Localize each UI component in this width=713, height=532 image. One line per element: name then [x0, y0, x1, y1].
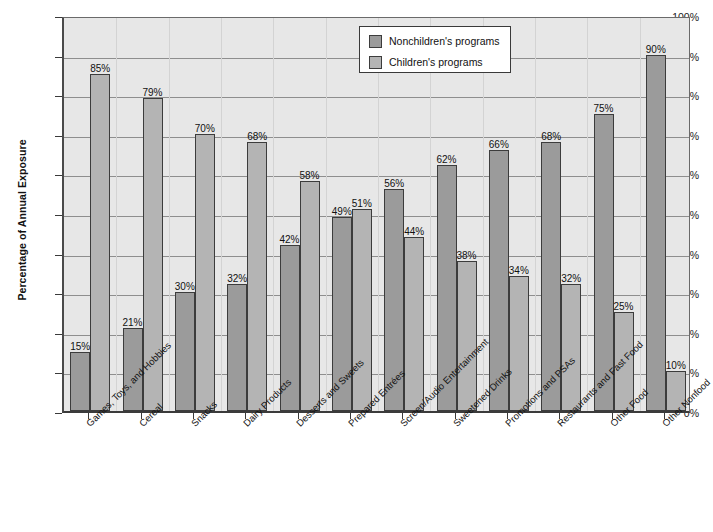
y-axis-tick-mark — [55, 294, 62, 295]
bar-value-label: 32% — [553, 273, 589, 285]
bar — [352, 209, 372, 411]
bar — [404, 237, 424, 411]
bar-value-label: 79% — [135, 87, 171, 99]
bar-value-label: 66% — [481, 139, 517, 151]
bar-value-label: 34% — [501, 265, 537, 277]
y-axis-tick-mark — [55, 255, 62, 256]
bar-value-label: 56% — [376, 178, 412, 190]
y-axis-tick-mark — [55, 334, 62, 335]
y-axis-tick-mark — [55, 136, 62, 137]
bar — [646, 55, 666, 411]
bar — [300, 181, 320, 411]
vertical-gridline — [587, 18, 588, 411]
bar-value-label: 85% — [82, 63, 118, 75]
legend-swatch-icon — [369, 35, 382, 48]
vertical-gridline — [378, 18, 379, 411]
legend-label: Children's programs — [389, 56, 483, 69]
bar — [175, 292, 195, 411]
y-axis-title: Percentage of Annual Exposure — [16, 130, 32, 310]
bar-value-label: 58% — [292, 170, 328, 182]
bar-value-label: 62% — [429, 154, 465, 166]
y-axis-tick-mark — [55, 57, 62, 58]
vertical-gridline — [535, 18, 536, 411]
bar-value-label: 38% — [449, 250, 485, 262]
bar-value-label: 75% — [586, 103, 622, 115]
y-axis-tick-mark — [55, 96, 62, 97]
bar-value-label: 90% — [638, 44, 674, 56]
top-edge-artifact — [8, 0, 198, 6]
bar — [247, 142, 267, 411]
vertical-gridline — [221, 18, 222, 411]
y-axis-tick-mark — [55, 373, 62, 374]
bar-value-label: 51% — [344, 198, 380, 210]
y-axis-tick-mark — [55, 175, 62, 176]
bar-value-label: 70% — [187, 123, 223, 135]
vertical-gridline — [430, 18, 431, 411]
legend-label: Nonchildren's programs — [389, 35, 500, 48]
y-axis-tick-mark — [55, 17, 62, 18]
bar-value-label: 68% — [533, 131, 569, 143]
y-axis-tick-mark — [55, 413, 62, 414]
bar — [227, 284, 247, 411]
vertical-gridline — [273, 18, 274, 411]
vertical-gridline — [116, 18, 117, 411]
legend-swatch-icon — [369, 56, 382, 69]
y-axis-tick-mark — [55, 215, 62, 216]
bar-value-label: 68% — [239, 131, 275, 143]
bar-value-label: 44% — [396, 226, 432, 238]
bar — [90, 74, 110, 411]
bar — [561, 284, 581, 411]
bar — [509, 276, 529, 411]
bar — [70, 352, 90, 411]
chart-legend: Nonchildren's programsChildren's program… — [359, 26, 511, 73]
bar-value-label: 10% — [658, 360, 694, 372]
bar — [457, 261, 477, 411]
bar — [195, 134, 215, 411]
bar-value-label: 25% — [606, 301, 642, 313]
